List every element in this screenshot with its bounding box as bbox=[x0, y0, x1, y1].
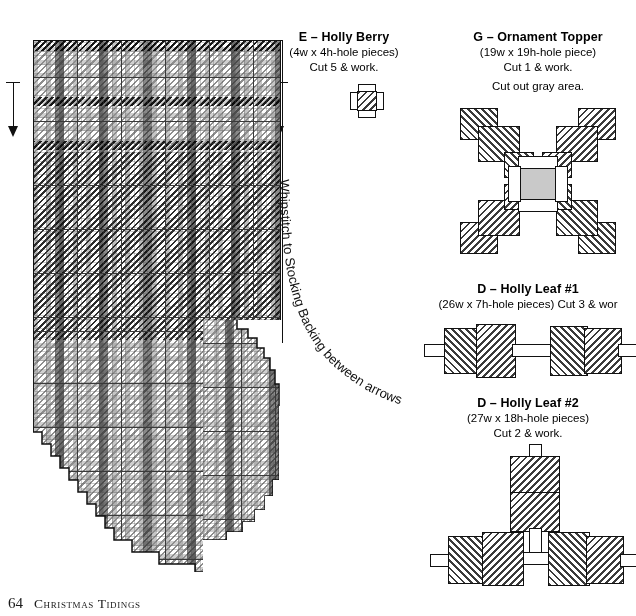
holly-leaf-2-diagram bbox=[424, 444, 636, 596]
page-number: 64 bbox=[8, 595, 23, 611]
stocking-toe-section bbox=[203, 320, 281, 572]
holly-berry-subtitle-2: Cut 5 & work. bbox=[286, 60, 402, 75]
holly-leaf-1-subtitle: (26w x 7h-hole pieces) Cut 3 & wor bbox=[420, 297, 636, 312]
page-footer: 64 Christmas Tidings bbox=[8, 594, 141, 612]
stocking-leg-outline bbox=[33, 40, 283, 343]
holly-leaf-1-diagram bbox=[424, 320, 636, 380]
holly-leaf-2-panel: D – Holly Leaf #2 (27w x 18h-hole pieces… bbox=[420, 396, 636, 440]
whipstitch-annotation-text: Whipstitch to Stocking Backing between a… bbox=[277, 179, 404, 407]
ornament-topper-subtitle-3: Cut out gray area. bbox=[440, 79, 636, 94]
ornament-topper-panel: G – Ornament Topper (19w x 19h-hole piec… bbox=[440, 30, 636, 94]
holly-berry-subtitle-1: (4w x 4h-hole pieces) bbox=[286, 45, 402, 60]
ornament-topper-cutout-area bbox=[518, 166, 558, 202]
ornament-topper-subtitle-1: (19w x 19h-hole piece) bbox=[440, 45, 636, 60]
whipstitch-arrow-left-icon bbox=[6, 82, 22, 140]
holly-leaf-2-subtitle-2: Cut 2 & work. bbox=[420, 426, 636, 441]
holly-leaf-1-panel: D – Holly Leaf #1 (26w x 7h-hole pieces)… bbox=[420, 282, 636, 312]
ornament-topper-subtitle-2: Cut 1 & work. bbox=[440, 60, 636, 75]
holly-berry-panel: E – Holly Berry (4w x 4h-hole pieces) Cu… bbox=[286, 30, 402, 74]
book-title: Christmas Tidings bbox=[34, 596, 141, 611]
ornament-topper-title: G – Ornament Topper bbox=[440, 30, 636, 45]
holly-leaf-2-subtitle-1: (27w x 18h-hole pieces) bbox=[420, 411, 636, 426]
holly-berry-diagram bbox=[350, 84, 384, 118]
ornament-topper-diagram bbox=[452, 104, 622, 256]
stocking-chart bbox=[33, 40, 281, 572]
holly-berry-title: E – Holly Berry bbox=[286, 30, 402, 45]
holly-leaf-1-title: D – Holly Leaf #1 bbox=[420, 282, 636, 297]
holly-leaf-2-title: D – Holly Leaf #2 bbox=[420, 396, 636, 411]
